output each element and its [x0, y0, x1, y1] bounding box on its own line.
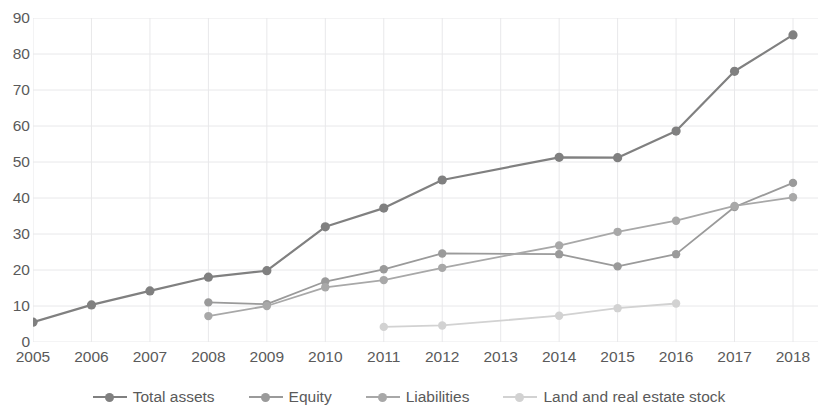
y-axis-tick-label: 80 — [0, 46, 30, 62]
data-point — [672, 216, 680, 224]
y-axis-tick-label: 90 — [0, 10, 30, 26]
y-axis-tick-label: 70 — [0, 82, 30, 98]
data-point — [730, 202, 738, 210]
legend-marker-icon — [503, 391, 537, 403]
x-axis-tick-label: 2006 — [61, 348, 121, 366]
x-axis-tick-label: 2013 — [471, 348, 531, 366]
legend-item-label: Land and real estate stock — [542, 388, 725, 406]
data-point — [438, 321, 446, 329]
data-point — [438, 264, 446, 272]
x-axis-tick-label: 2014 — [529, 348, 589, 366]
y-axis-tick-label: 50 — [0, 154, 30, 170]
legend-item[interactable]: Liabilities — [366, 388, 470, 406]
data-point — [613, 262, 621, 270]
data-point — [555, 250, 563, 258]
legend-item[interactable]: Total assets — [93, 388, 215, 406]
data-point — [555, 312, 563, 320]
legend-item-label: Equity — [288, 388, 332, 406]
data-point — [438, 175, 447, 184]
data-point — [613, 228, 621, 236]
data-point — [730, 67, 739, 76]
x-axis-tick-label: 2011 — [354, 348, 414, 366]
data-point — [613, 153, 622, 162]
data-point — [33, 318, 38, 327]
y-axis-tick-label: 10 — [0, 298, 30, 314]
data-point — [87, 300, 96, 309]
x-axis-tick-label: 2012 — [412, 348, 472, 366]
data-point — [672, 299, 680, 307]
data-point — [438, 249, 446, 257]
x-axis-tick-label: 2007 — [120, 348, 180, 366]
x-axis-tick-label: 2018 — [763, 348, 818, 366]
y-axis-tick-label: 40 — [0, 190, 30, 206]
y-axis: 9080706050403020100 — [0, 0, 30, 360]
legend-item-label: Liabilities — [405, 388, 470, 406]
x-axis-tick-label: 2017 — [705, 348, 765, 366]
data-point — [789, 179, 797, 187]
data-point — [555, 241, 563, 249]
data-point — [145, 286, 154, 295]
y-axis-tick-label: 20 — [0, 262, 30, 278]
legend-marker-icon — [93, 391, 127, 403]
data-point — [613, 304, 621, 312]
line-chart: 9080706050403020100 20052006200720082009… — [0, 0, 818, 411]
data-point — [671, 126, 680, 135]
data-point — [321, 283, 329, 291]
series-total-assets — [33, 30, 798, 326]
data-point — [672, 250, 680, 258]
y-axis-tick-label: 60 — [0, 118, 30, 134]
data-point — [380, 323, 388, 331]
x-axis-tick-label: 2005 — [3, 348, 63, 366]
y-axis-tick-label: 30 — [0, 226, 30, 242]
data-point — [263, 302, 271, 310]
data-point — [788, 30, 797, 39]
plot-svg — [33, 18, 818, 342]
x-axis-tick-label: 2016 — [646, 348, 706, 366]
legend-marker-icon — [366, 391, 400, 403]
data-point — [379, 203, 388, 212]
x-axis-tick-label: 2009 — [237, 348, 297, 366]
x-axis-tick-label: 2010 — [295, 348, 355, 366]
legend-item[interactable]: Land and real estate stock — [503, 388, 725, 406]
data-point — [204, 298, 212, 306]
data-point — [789, 193, 797, 201]
data-point — [262, 266, 271, 275]
data-point — [380, 276, 388, 284]
legend-item[interactable]: Equity — [249, 388, 332, 406]
legend-marker-icon — [249, 391, 283, 403]
x-axis-tick-label: 2015 — [588, 348, 648, 366]
x-axis: 2005200620072008200920102011201220132014… — [0, 348, 818, 374]
data-point — [321, 222, 330, 231]
data-point — [555, 153, 564, 162]
data-point — [380, 265, 388, 273]
x-axis-tick-label: 2008 — [178, 348, 238, 366]
legend-item-label: Total assets — [132, 388, 215, 406]
data-point — [204, 273, 213, 282]
series-land-and-real-estate-stock — [380, 299, 681, 331]
chart-legend: Total assetsEquityLiabilitiesLand and re… — [0, 383, 818, 411]
data-point — [204, 312, 212, 320]
plot-area — [33, 18, 818, 342]
